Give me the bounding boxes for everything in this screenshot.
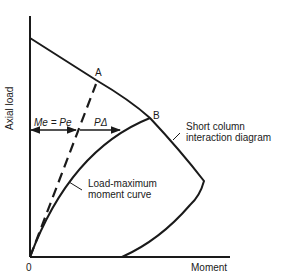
point-a-label: A	[95, 67, 102, 78]
eccentric-moment-label: Me = Pe	[34, 117, 72, 128]
second-order-moment-label: PΔ	[94, 117, 107, 128]
interaction-diagram: Axial load 0 Moment A B Me = Pe PΔ Short…	[0, 0, 298, 277]
load-moment-leader	[69, 182, 82, 190]
origin-label: 0	[26, 262, 32, 273]
eccentricity-dashed-line	[30, 84, 96, 257]
load-moment-label-line1: Load-maximum	[88, 178, 157, 189]
short-column-interaction-curve	[30, 38, 204, 257]
short-column-leader	[173, 133, 180, 140]
short-column-label-line1: Short column	[186, 121, 245, 132]
y-axis-label: Axial load	[4, 87, 15, 130]
short-column-label-line2: interaction diagram	[186, 132, 271, 143]
load-moment-label-line2: moment curve	[88, 189, 151, 200]
x-axis-label: Moment	[191, 262, 227, 273]
point-b-label: B	[153, 110, 160, 121]
